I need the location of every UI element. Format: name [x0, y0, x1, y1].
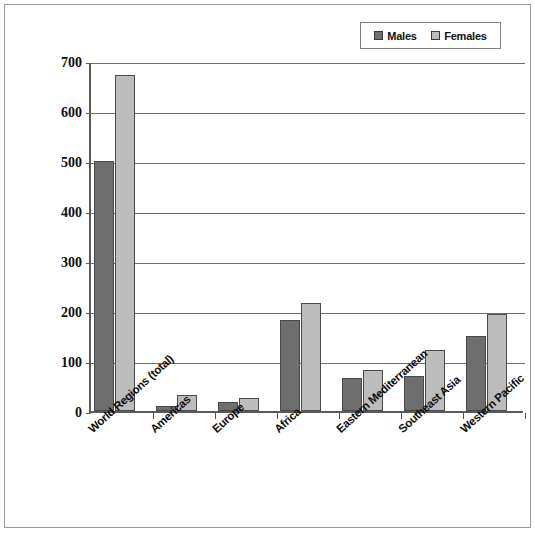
- x-axis-tick: [277, 413, 278, 419]
- y-axis-tick-label: 200: [61, 305, 82, 321]
- y-axis-tick-label: 100: [61, 355, 82, 371]
- x-axis-tick: [153, 413, 154, 419]
- x-axis-tick: [401, 413, 402, 419]
- bar-males: [280, 320, 300, 412]
- figure-frame: Males Females 0100200300400500600700 Wor…: [4, 4, 531, 528]
- chart-screenshot: Males Females 0100200300400500600700 Wor…: [0, 0, 535, 540]
- y-axis-tick: [86, 63, 91, 64]
- x-axis-tick: [525, 413, 526, 419]
- legend-swatch-males: [374, 31, 383, 40]
- legend-label-males: Males: [387, 30, 417, 42]
- x-axis-tick: [463, 413, 464, 419]
- bar-males: [466, 336, 486, 412]
- legend-entry-males: Males: [374, 30, 417, 42]
- plot-area: 0100200300400500600700: [89, 63, 523, 413]
- gridline: [91, 163, 525, 164]
- x-axis-tick: [215, 413, 216, 419]
- bar-females: [115, 75, 135, 411]
- legend-entry-females: Females: [431, 30, 487, 42]
- bar-males: [94, 161, 114, 411]
- chart-legend: Males Females: [360, 22, 501, 49]
- gridline: [91, 213, 525, 214]
- x-axis-tick: [339, 413, 340, 419]
- y-axis-tick-label: 600: [61, 105, 82, 121]
- y-axis-tick-label: 400: [61, 205, 82, 221]
- y-axis-tick-label: 700: [61, 55, 82, 71]
- y-axis-tick-label: 500: [61, 155, 82, 171]
- y-axis-tick: [86, 163, 91, 164]
- y-axis-tick: [86, 413, 91, 414]
- y-axis-tick: [86, 363, 91, 364]
- y-axis-tick-label: 300: [61, 255, 82, 271]
- y-axis-tick: [86, 113, 91, 114]
- legend-swatch-females: [431, 31, 440, 40]
- legend-label-females: Females: [444, 30, 487, 42]
- y-axis-tick: [86, 213, 91, 214]
- y-axis-tick: [86, 263, 91, 264]
- bar-females: [301, 303, 321, 411]
- gridline: [91, 63, 525, 64]
- gridline: [91, 113, 525, 114]
- y-axis-tick: [86, 313, 91, 314]
- gridline: [91, 263, 525, 264]
- y-axis-tick-label: 0: [75, 405, 82, 421]
